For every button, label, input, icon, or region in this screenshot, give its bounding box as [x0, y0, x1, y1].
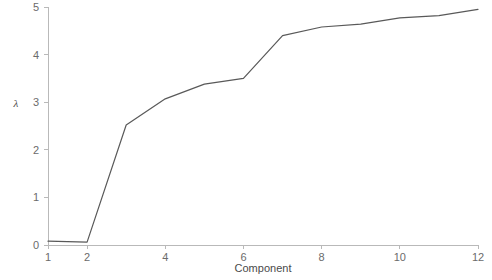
- y-axis-tick-group: [44, 7, 48, 245]
- x-axis: 124681012: [45, 245, 484, 263]
- x-axis-tick-label: 12: [472, 251, 484, 263]
- chart-canvas: 012345 124681012 Component λ: [0, 0, 492, 280]
- y-axis-title: λ: [13, 97, 19, 109]
- x-axis-tick-group: [48, 245, 478, 249]
- y-axis-tick-label: 5: [33, 1, 39, 13]
- x-axis-tick-label: 10: [394, 251, 406, 263]
- x-axis-tick-label: 4: [162, 251, 168, 263]
- x-axis-title: Component: [235, 262, 292, 274]
- x-axis-tick-label: 1: [45, 251, 51, 263]
- y-axis-tick-label: 3: [33, 96, 39, 108]
- y-axis-tick-label: 4: [33, 49, 39, 61]
- y-axis-label-group: 012345: [33, 1, 39, 251]
- x-axis-tick-label: 2: [84, 251, 90, 263]
- x-axis-tick-label: 8: [319, 251, 325, 263]
- y-axis: 012345: [33, 1, 48, 251]
- y-axis-tick-label: 2: [33, 144, 39, 156]
- scree-plot-chart: 012345 124681012 Component λ: [0, 0, 492, 280]
- eigenvalue-line-series: [48, 9, 478, 242]
- y-axis-tick-label: 0: [33, 239, 39, 251]
- y-axis-tick-label: 1: [33, 191, 39, 203]
